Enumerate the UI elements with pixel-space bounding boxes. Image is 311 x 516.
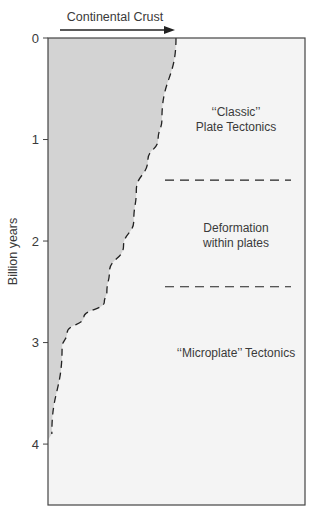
y-tick-label: 0 [32,31,39,46]
y-tick-label: 4 [32,437,39,452]
crust-chart: 01234 ‘‘Classic’’Plate TectonicsDeformat… [0,0,311,516]
y-axis-label: Billion years [6,218,20,285]
chart-title: Continental Crust [67,10,164,24]
y-tick-label: 3 [32,335,39,350]
annotation-classic: Plate Tectonics [196,120,277,134]
annotation-classic: ‘‘Classic’’ [212,105,261,119]
y-tick-label: 1 [32,132,39,147]
annotation-deformation: within plates [202,236,269,250]
y-tick-label: 2 [32,234,39,249]
annotation-deformation: Deformation [203,221,268,235]
annotation-microplate: ‘‘Microplate’’ Tectonics [177,346,295,360]
arrow-right-icon [164,26,175,34]
